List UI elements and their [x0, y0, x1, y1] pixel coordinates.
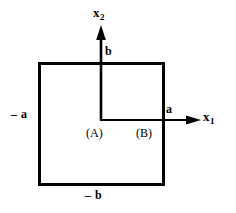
x1-axis-label-text: x [203, 109, 210, 124]
figure-container: x2 x1 b a – a – b (A) (B) [0, 0, 236, 213]
up-arrowhead-icon [96, 25, 106, 40]
diagram-canvas [0, 0, 236, 213]
x1-axis-label: x1 [203, 110, 215, 126]
point-b-label: (B) [136, 127, 152, 139]
point-a-label: (A) [86, 127, 103, 139]
b-positive-label: b [105, 45, 112, 57]
a-negative-label: – a [11, 108, 28, 120]
x2-axis-label: x2 [93, 6, 105, 22]
x1-axis-label-subscript: 1 [210, 116, 215, 126]
right-arrowhead-icon [186, 115, 201, 124]
a-positive-label: a [166, 103, 172, 115]
x2-axis-label-subscript: 2 [100, 12, 105, 22]
x2-axis-label-text: x [93, 5, 100, 20]
b-negative-label: – b [85, 189, 102, 201]
